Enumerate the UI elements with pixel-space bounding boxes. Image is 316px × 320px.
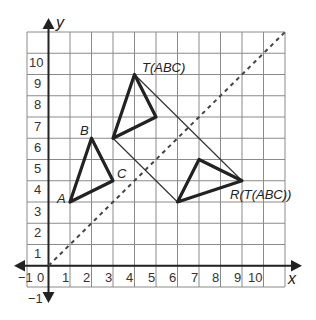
y-tick-1: 1 [34, 246, 41, 261]
x-tick-2: 2 [83, 270, 90, 285]
x-tick-5: 5 [148, 270, 155, 285]
y-axis-label: y [55, 14, 65, 31]
y-tick-5: 5 [34, 161, 41, 176]
y-tick-neg1: −1 [28, 291, 43, 306]
vertex-label-a: A [56, 191, 66, 206]
y-axis-arrow-up-icon [43, 18, 55, 29]
x-tick-4: 4 [126, 270, 133, 285]
y-tick-2: 2 [34, 225, 41, 240]
y-tick-6: 6 [34, 140, 41, 155]
x-tick-8: 8 [212, 270, 219, 285]
x-tick-neg1: −1 [18, 270, 33, 285]
x-tick-1: 1 [62, 270, 69, 285]
y-tick-3: 3 [34, 204, 41, 219]
x-tick-labels: −1 0 1 2 3 4 5 6 7 8 9 10 [18, 270, 262, 285]
x-tick-9: 9 [234, 270, 241, 285]
x-tick-6: 6 [169, 270, 176, 285]
x-tick-7: 7 [191, 270, 198, 285]
diagram-canvas: y x −1 0 1 2 3 4 5 6 7 8 9 10 10 9 8 7 6… [0, 0, 316, 320]
y-tick-7: 7 [34, 119, 41, 134]
figure-label-t-abc: T(ABC) [142, 60, 185, 75]
vertex-label-c: C [117, 166, 127, 181]
x-tick-3: 3 [105, 270, 112, 285]
coordinate-plane-diagram: y x −1 0 1 2 3 4 5 6 7 8 9 10 10 9 8 7 6… [0, 0, 316, 320]
y-tick-9: 9 [34, 76, 41, 91]
figure-label-r-t-abc: R(T(ABC)) [230, 187, 291, 202]
x-tick-10: 10 [248, 270, 262, 285]
origin-tick: 0 [37, 270, 44, 285]
x-axis-label: x [287, 270, 297, 287]
y-tick-8: 8 [34, 97, 41, 112]
y-tick-4: 4 [34, 182, 41, 197]
vertex-label-b: B [80, 123, 89, 138]
y-tick-10: 10 [29, 55, 43, 70]
y-axis-arrow-down-icon [43, 292, 55, 303]
